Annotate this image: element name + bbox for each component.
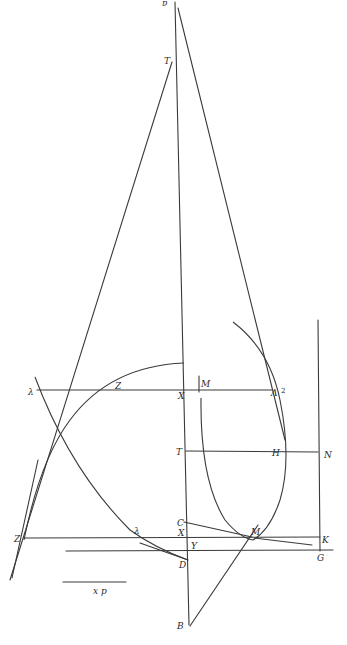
label-apex: ɐ — [162, 0, 168, 8]
label-upper-t: T — [164, 56, 171, 66]
label-low-z: Z — [13, 534, 21, 544]
label-scale-caption: x p — [93, 586, 107, 596]
left-secant-line — [12, 460, 38, 578]
label-low-c: C — [177, 518, 184, 528]
m-to-b-line — [190, 525, 258, 626]
horizontal-line-t-n — [186, 451, 318, 452]
horizontal-line-z-k — [24, 537, 320, 538]
label-right-lambda-sup: 2 — [281, 387, 285, 395]
k-to-m-line — [254, 538, 312, 545]
label-axis-x: X — [177, 391, 185, 401]
left-descending-curve — [35, 377, 188, 560]
label-h: H — [271, 448, 280, 458]
d-line — [140, 543, 188, 560]
label-right-lambda: Λ — [270, 388, 278, 398]
label-low-d: D — [178, 560, 186, 570]
left-tangent-line — [10, 62, 172, 580]
label-left-lambda: λ — [27, 387, 34, 397]
label-g: G — [317, 553, 324, 563]
right-oval-curve — [233, 322, 286, 540]
label-low-m: M — [250, 527, 261, 537]
right-tangent-line — [178, 8, 285, 440]
label-low-lambda: λ — [133, 526, 140, 536]
inner-curve — [201, 398, 253, 540]
c-to-m-line — [184, 522, 252, 537]
label-k: K — [321, 535, 330, 545]
right-vertical-line — [318, 320, 320, 551]
horizontal-line-lower — [66, 550, 333, 551]
label-m: M — [200, 379, 211, 389]
label-n: N — [323, 450, 333, 460]
label-low-y: Y — [191, 541, 198, 551]
label-low-x: X — [177, 528, 185, 538]
label-axis-t: T — [176, 447, 183, 457]
label-b: B — [176, 621, 184, 631]
label-mid-z: Z — [114, 381, 122, 391]
geometric-figure: ɐ T λ Z X M Λ 2 T H N Z λ C X Y D M K G … — [0, 0, 347, 645]
